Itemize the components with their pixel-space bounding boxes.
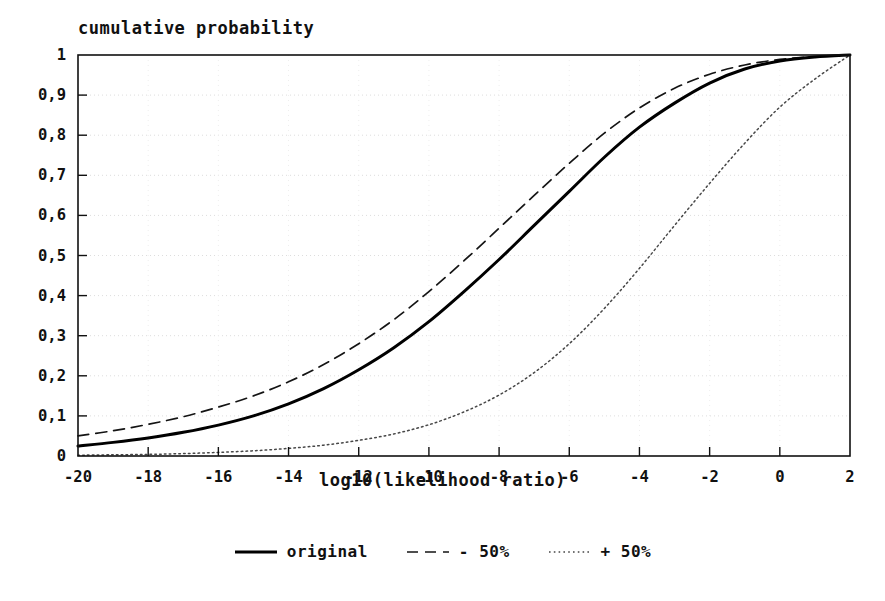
x-axis-title: log10(likelihood ratio) (319, 470, 566, 490)
chart-legend: original- 50%+ 50% (0, 542, 885, 561)
x-tick-label: -20 (64, 468, 92, 486)
x-tick-label: 0 (775, 468, 784, 486)
y-tick-label: 0 (0, 447, 66, 465)
y-tick-label: 0,2 (0, 367, 66, 385)
chart-figure: cumulative probability 00,10,20,30,40,50… (0, 0, 885, 601)
y-tick-label: 0,4 (0, 287, 66, 305)
y-tick-label: 0,3 (0, 327, 66, 345)
gridlines (78, 55, 850, 456)
legend-item: original (234, 542, 368, 561)
x-tick-label: -18 (134, 468, 162, 486)
legend-item: + 50% (548, 542, 652, 561)
x-tick-label: -4 (630, 468, 649, 486)
y-tick-label: 1 (0, 46, 66, 64)
x-tick-label: -2 (700, 468, 719, 486)
legend-label: + 50% (601, 542, 652, 561)
legend-label: - 50% (459, 542, 510, 561)
legend-item: - 50% (406, 542, 510, 561)
x-tick-label: 2 (845, 468, 854, 486)
y-tick-label: 0,6 (0, 206, 66, 224)
legend-line-icon (234, 545, 278, 559)
legend-line-icon (548, 545, 592, 559)
legend-line-icon (406, 545, 450, 559)
y-tick-label: 0,1 (0, 407, 66, 425)
curve-series-0 (78, 55, 850, 446)
y-tick-label: 0,5 (0, 247, 66, 265)
y-tick-label: 0,8 (0, 126, 66, 144)
x-tick-label: -16 (204, 468, 232, 486)
x-tick-label: -14 (275, 468, 303, 486)
plot-area (0, 0, 885, 601)
y-tick-label: 0,9 (0, 86, 66, 104)
curve-series-1 (78, 55, 850, 436)
y-tick-label: 0,7 (0, 166, 66, 184)
legend-label: original (287, 542, 368, 561)
